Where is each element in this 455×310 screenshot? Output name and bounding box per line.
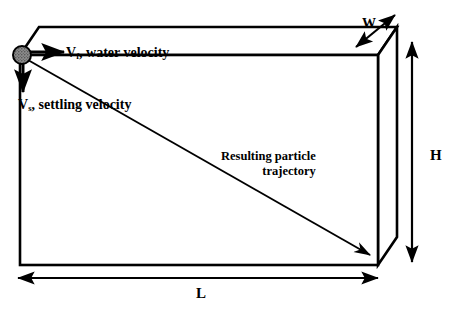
length-label: L	[196, 285, 206, 302]
height-label: H	[430, 147, 442, 164]
water-velocity-label: Vf, water velocity	[66, 45, 169, 61]
trajectory-label-line1: Resulting particle	[221, 149, 316, 164]
particle-icon	[13, 46, 31, 64]
water-velocity-subscript: f	[76, 51, 79, 61]
width-label: W	[362, 16, 376, 32]
basin-right-face	[378, 27, 397, 265]
trajectory-label-line2: trajectory	[221, 164, 316, 179]
water-velocity-text: , water velocity	[79, 45, 169, 60]
water-velocity-symbol: V	[66, 45, 76, 60]
settling-velocity-subscript: s	[28, 103, 31, 113]
settling-velocity-text: , settling velocity	[32, 97, 132, 112]
settling-velocity-symbol: V	[18, 97, 28, 112]
settling-velocity-label: Vs, settling velocity	[18, 97, 131, 113]
sedimentation-basin-diagram: Vf, water velocity Vs, settling velocity…	[0, 0, 455, 310]
trajectory-label: Resulting particle trajectory	[221, 149, 316, 179]
